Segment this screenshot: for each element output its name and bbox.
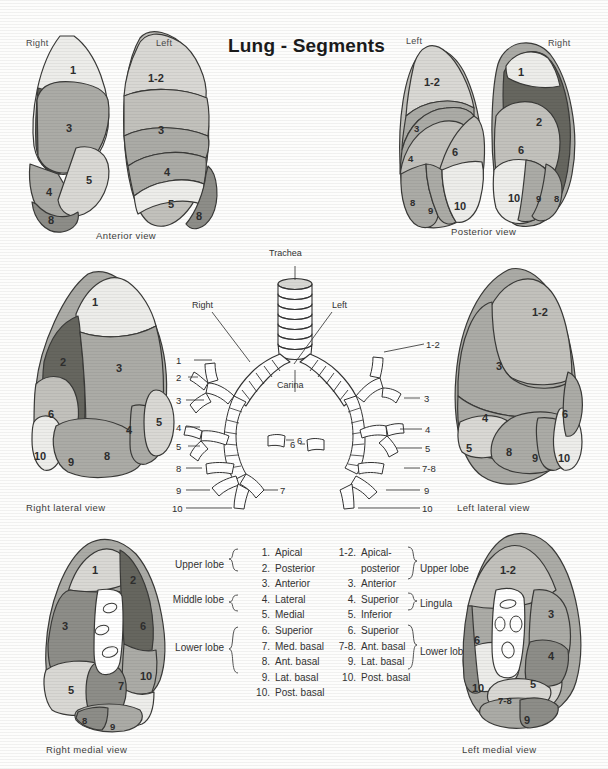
list-item: 8.Ant. basal: [244, 654, 324, 670]
segment-number: 1-2: [500, 564, 516, 576]
trachea-label: Trachea: [269, 248, 302, 258]
segment-number: 3: [158, 124, 164, 136]
tree-number: 3: [424, 393, 429, 404]
segment-number: 4: [408, 153, 414, 164]
posterior-view-caption: Posterior view: [451, 226, 516, 237]
posterior-view: 1-2 3 4 6 8 9 10 Left 1 2 6 10 9 8 Right: [370, 24, 600, 239]
list-item: 3.Anterior: [330, 576, 410, 592]
segment-number: 10: [140, 670, 152, 682]
left-medial-caption-wrap: Left medial view: [440, 740, 608, 760]
tree-number: 2: [176, 372, 181, 383]
right-lateral-caption-wrap: Right lateral view: [14, 498, 174, 518]
segment-number: 3: [548, 608, 554, 620]
posterior-right-label: Right: [548, 38, 571, 48]
segment-number: 10: [454, 200, 466, 212]
segment-number: 1: [518, 66, 524, 78]
segment-number: 8: [554, 193, 559, 204]
tree-right-label: Right: [192, 300, 214, 310]
segment-number: 5: [156, 416, 162, 428]
list-item: 1-2.Apical-: [330, 545, 410, 561]
right-lateral-view: 1 2 3 4 5 6 8 9 10: [14, 266, 194, 501]
segment-number: 5: [466, 442, 472, 454]
list-item: 9.Lat. basal: [330, 654, 410, 670]
tree-number: 4: [425, 424, 430, 435]
list-item: 4.Superior: [330, 592, 410, 608]
tree-left-label: Left: [332, 300, 348, 310]
left-medial-caption: Left medial view: [462, 744, 537, 755]
segment-number: 7-8: [498, 695, 512, 706]
list-item: 4.Lateral: [244, 592, 324, 608]
left-medial-view: 1-2 3 4 5 6 7-8 9 10: [438, 532, 608, 737]
tree-number: 5: [176, 441, 181, 452]
left-lateral-caption-wrap: Left lateral view: [445, 498, 605, 518]
segment-number: 8: [82, 715, 87, 726]
segment-number: 3: [62, 620, 68, 632]
list-item: 9.Lat. basal: [244, 670, 324, 686]
segment-number: 4: [164, 166, 171, 178]
segment-number: 1: [70, 64, 76, 76]
segment-number: 1-2: [148, 72, 164, 84]
tree-number: 4: [176, 422, 181, 433]
right-medial-caption-wrap: Right medial view: [24, 740, 194, 760]
segment-number: 5: [68, 684, 74, 696]
segment-number: 6: [518, 144, 524, 156]
tree-number-inner: 7: [280, 485, 285, 496]
right-lateral-caption: Right lateral view: [26, 502, 106, 513]
segment-number: 8: [48, 214, 54, 226]
segment-number: 1-2: [532, 306, 548, 318]
bronchial-tree-diagram: 1 2 3 4 5 8 9 10 6 7 1-2 3 4 5 7-8: [172, 240, 442, 520]
segment-number: 6: [140, 620, 146, 632]
right-medial-caption: Right medial view: [46, 744, 127, 755]
left-lung-segment-list: 1-2.Apical- posterior 3.Anterior 4.Super…: [330, 545, 410, 685]
segment-number: 9: [532, 452, 538, 464]
page-title: Lung - Segments: [228, 35, 385, 56]
segment-number: 2: [130, 574, 136, 586]
list-item: 6.Superior: [330, 623, 410, 639]
right-medial-view: 1 2 3 5 6 7 8 9 10: [24, 532, 204, 737]
segment-number: 6: [48, 408, 54, 420]
segment-number: 8: [506, 446, 512, 458]
segment-number: 5: [530, 678, 536, 690]
segment-number: 3: [116, 362, 122, 374]
tree-number: 8: [176, 463, 181, 474]
carina-label: Carina: [277, 380, 304, 390]
segment-number: 4: [126, 424, 133, 436]
list-item: 7-8.Ant. basal: [330, 639, 410, 655]
anterior-left-label: Left: [156, 38, 172, 48]
segment-number: 7: [118, 680, 124, 692]
segment-number: 10: [558, 452, 570, 464]
segment-number: 9: [524, 714, 530, 726]
segment-number: 3: [66, 122, 72, 134]
tree-number: 1-2: [426, 339, 440, 350]
segment-number: 3: [414, 123, 419, 134]
tree-number: 9: [424, 485, 429, 496]
list-item: 2.Posterior: [244, 561, 324, 577]
list-item: 3.Anterior: [244, 576, 324, 592]
segment-number: 8: [410, 197, 415, 208]
list-item: 10.Post. basal: [244, 685, 324, 701]
tree-number: 5: [425, 443, 430, 454]
segment-number: 2: [536, 116, 542, 128]
segment-number: 9: [110, 721, 115, 732]
list-item: 6.Superior: [244, 623, 324, 639]
list-item: 5.Medial: [244, 607, 324, 623]
right-bronchial-branches: [184, 363, 285, 509]
tree-number: 9: [176, 485, 181, 496]
list-item: posterior: [330, 561, 410, 577]
segment-number: 1: [92, 296, 98, 308]
segment-number: 5: [86, 174, 92, 186]
segment-number: 9: [68, 456, 74, 468]
list-item: 7.Med. basal: [244, 639, 324, 655]
segment-number: 6: [562, 408, 568, 420]
segment-number: 6: [474, 634, 480, 646]
left-bronchial-branches: [307, 357, 404, 509]
segment-number: 8: [196, 210, 202, 222]
segment-number: 4: [548, 650, 555, 662]
segment-number: 1: [92, 564, 98, 576]
anterior-view-caption: Anterior view: [96, 230, 156, 241]
posterior-left-label: Left: [406, 36, 422, 46]
lung-segments-figure: Lung - Segments 1 3 4 5 8 Right 1-2: [0, 0, 608, 769]
list-item: 5.Inferior: [330, 607, 410, 623]
left-lobe-braces: [404, 545, 420, 715]
segment-number: 9: [428, 205, 433, 216]
